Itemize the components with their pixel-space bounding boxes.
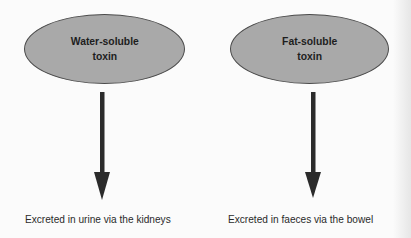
water-soluble-outcome: Excreted in urine via the kidneys (25, 213, 171, 225)
arrow-down-icon (303, 92, 323, 202)
water-soluble-toxin-label: Water-soluble toxin (70, 34, 138, 64)
fat-soluble-toxin-node: Fat-soluble toxin (230, 14, 389, 84)
fat-soluble-toxin-label: Fat-soluble toxin (282, 34, 337, 64)
water-soluble-toxin-node: Water-soluble toxin (24, 14, 185, 84)
page-edge-shadow (393, 0, 411, 238)
fat-soluble-outcome: Excreted in faeces via the bowel (228, 213, 373, 225)
arrow-down-icon (92, 92, 112, 202)
